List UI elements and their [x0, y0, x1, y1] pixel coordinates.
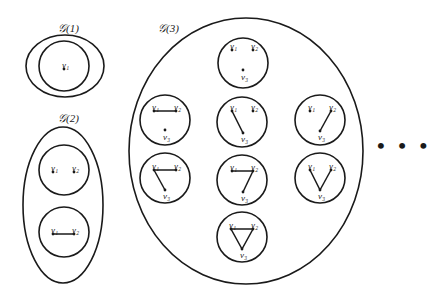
- vertex-label-v3: ν₃: [241, 72, 248, 82]
- graph-g3-e23: ν₁ ν₂ ν₃: [295, 95, 345, 145]
- graph-g1-0: ν₁: [39, 41, 89, 91]
- group-g3: 𝒢(3) ν₁ ν₂ ν₃ ν₁ ν₂ ν₃: [129, 18, 363, 284]
- vertex-label-v1: ν₁: [230, 102, 237, 112]
- group-g1: 𝒢(1) ν₁: [26, 22, 104, 97]
- vertex-label-v3: ν₃: [241, 134, 248, 144]
- graph-g3-e12-e23: ν₁ ν₂ ν₃: [217, 155, 267, 205]
- vertex-label-v2: ν₂: [72, 163, 79, 173]
- graph-boundary: [39, 145, 89, 195]
- edge-v1-v3: [154, 170, 165, 190]
- vertex-label-v1: ν₁: [51, 225, 58, 235]
- vertex-label-v2: ν₂: [329, 161, 336, 171]
- vertex-v3: [164, 129, 167, 132]
- continuation-ellipsis: • • •: [377, 133, 431, 158]
- graph-g3-e12: ν₁ ν₂ ν₃: [140, 95, 190, 145]
- group-boundary-g2: [23, 127, 103, 283]
- graph-families-diagram: 𝒢(1) ν₁ 𝒢(2) ν₁ ν₂ ν₁ ν₂ 𝒢(3): [0, 0, 431, 298]
- graph-boundary: [39, 207, 89, 257]
- graph-g2-0: ν₁ ν₂: [39, 145, 89, 195]
- vertex-label-v3: ν₃: [163, 191, 170, 201]
- vertex-label-v3: ν₃: [318, 191, 325, 201]
- vertex-label-v2: ν₂: [329, 102, 336, 112]
- diagram-canvas: 𝒢(1) ν₁ 𝒢(2) ν₁ ν₂ ν₁ ν₂ 𝒢(3): [0, 0, 431, 298]
- group-label-g2: 𝒢(2): [58, 112, 79, 125]
- group-label-g1: 𝒢(1): [58, 22, 79, 35]
- graph-g3-complete: ν₁ ν₂ ν₃: [217, 212, 267, 262]
- vertex-label-v1: ν₁: [152, 102, 159, 112]
- vertex-label-v2: ν₂: [72, 225, 79, 235]
- vertex-label-v1: ν₁: [230, 41, 237, 51]
- vertex-label-v1: ν₁: [152, 161, 159, 171]
- edge-v1-v3: [232, 111, 243, 133]
- edge-v1-v3: [310, 170, 320, 190]
- edge-v2-v3: [320, 170, 331, 190]
- vertex-label-v2: ν₂: [174, 102, 181, 112]
- graph-g3-empty: ν₁ ν₂ ν₃: [218, 38, 268, 88]
- vertex-label-v3: ν₃: [241, 193, 248, 203]
- edge-v2-v3: [320, 111, 331, 131]
- graph-g2-1: ν₁ ν₂: [39, 207, 89, 257]
- vertex-label-v2: ν₂: [174, 161, 181, 171]
- graph-g3-e12-e13: ν₁ ν₂ ν₃: [140, 153, 190, 203]
- vertex-label-v2: ν₂: [251, 41, 258, 51]
- vertex-v3: [242, 69, 245, 72]
- vertex-label-v3: ν₃: [240, 250, 247, 260]
- vertex-label-v3: ν₃: [318, 132, 325, 142]
- graph-g3-e13: ν₁ ν₂ ν₃: [217, 97, 267, 147]
- vertex-label-v1: ν₁: [308, 161, 315, 171]
- vertex-label-v1: ν₁: [229, 220, 236, 230]
- vertex-label-v3: ν₃: [163, 132, 170, 142]
- vertex-label-v1: ν₁: [51, 163, 58, 173]
- group-g2: 𝒢(2) ν₁ ν₂ ν₁ ν₂: [23, 112, 103, 283]
- vertex-label-v1: ν₁: [308, 102, 315, 112]
- edge-v2-v3: [243, 171, 253, 192]
- vertex-label-v2: ν₂: [251, 220, 258, 230]
- vertex-label-v1: ν₁: [230, 162, 237, 172]
- group-boundary-g3: [129, 18, 363, 284]
- group-label-g3: 𝒢(3): [158, 22, 179, 35]
- vertex-label-v2: ν₂: [251, 102, 258, 112]
- vertex-label-v2: ν₂: [251, 162, 258, 172]
- vertex-label-v1: ν₁: [62, 60, 69, 70]
- edges-triangle: [231, 229, 253, 249]
- graph-g3-e13-e23: ν₁ ν₂ ν₃: [295, 153, 345, 203]
